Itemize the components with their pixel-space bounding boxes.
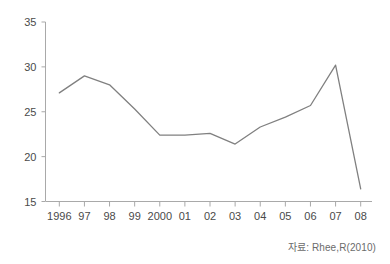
x-axis-tick-label: 2000 bbox=[148, 210, 172, 222]
y-axis-tick-label: 25 bbox=[24, 106, 36, 118]
x-axis-tick-label: 97 bbox=[78, 210, 90, 222]
x-axis-tick-label: 02 bbox=[204, 210, 216, 222]
x-axis: 199697989920000102030405060708 bbox=[46, 202, 373, 222]
x-axis-tick-label: 99 bbox=[129, 210, 141, 222]
data-series-line bbox=[59, 65, 360, 189]
x-axis-tick-label: 05 bbox=[279, 210, 291, 222]
y-axis: 1520253035 bbox=[24, 16, 45, 208]
x-axis-tick-label: 07 bbox=[329, 210, 341, 222]
x-axis-tick-label: 01 bbox=[179, 210, 191, 222]
x-axis-tick-label: 04 bbox=[254, 210, 266, 222]
y-axis-tick-labels: 1520253035 bbox=[24, 16, 36, 208]
line-chart-figure: 1520253035 19969798992000010203040506070… bbox=[0, 0, 390, 264]
x-axis-tick-labels: 199697989920000102030405060708 bbox=[47, 210, 367, 222]
chart-plot-area: 1520253035 19969798992000010203040506070… bbox=[0, 0, 390, 264]
x-axis-tick-label: 06 bbox=[304, 210, 316, 222]
x-axis-tick-label: 1996 bbox=[47, 210, 71, 222]
y-axis-tick-label: 20 bbox=[24, 151, 36, 163]
y-axis-ticks bbox=[42, 22, 46, 202]
y-axis-tick-label: 15 bbox=[24, 196, 36, 208]
source-note: 자료: Rhee,R(2010) bbox=[288, 239, 376, 254]
x-axis-tick-label: 08 bbox=[355, 210, 367, 222]
x-axis-tick-label: 03 bbox=[229, 210, 241, 222]
y-axis-tick-label: 30 bbox=[24, 61, 36, 73]
y-axis-tick-label: 35 bbox=[24, 16, 36, 28]
x-axis-ticks bbox=[59, 202, 360, 207]
x-axis-tick-label: 98 bbox=[103, 210, 115, 222]
